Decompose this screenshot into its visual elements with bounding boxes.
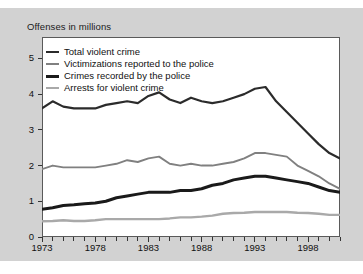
- x-tick-label-5: 1998: [288, 242, 328, 253]
- legend-swatch-icon: [46, 51, 59, 54]
- legend-label: Crimes recorded by the police: [64, 70, 190, 82]
- legend-label: Victimizations reported to the police: [64, 58, 214, 70]
- legend-item: Crimes recorded by the police: [46, 70, 276, 82]
- legend-item: Victimizations reported to the police: [46, 58, 276, 70]
- y-tick-label-2: 2: [20, 160, 34, 171]
- legend-label: Total violent crime: [64, 46, 140, 58]
- chart-figure: Offenses in millions Total violent crime…: [0, 0, 363, 274]
- x-tick-label-0: 1973: [22, 242, 62, 253]
- x-tick-label-4: 1993: [235, 242, 275, 253]
- legend-item: Arrests for violent crime: [46, 82, 276, 94]
- x-tick-label-1: 1978: [75, 242, 115, 253]
- y-tick-label-1: 1: [20, 195, 34, 206]
- legend-swatch-icon: [46, 75, 59, 78]
- x-tick-label-3: 1988: [182, 242, 222, 253]
- legend-swatch-icon: [46, 87, 59, 90]
- x-tick-label-2: 1983: [128, 242, 168, 253]
- y-tick-label-3: 3: [20, 124, 34, 135]
- y-tick-label-5: 5: [20, 52, 34, 63]
- chart-axes: [0, 0, 363, 274]
- y-tick-label-4: 4: [20, 88, 34, 99]
- legend-swatch-icon: [46, 63, 59, 66]
- legend-label: Arrests for violent crime: [64, 82, 164, 94]
- y-tick-label-0: 0: [20, 231, 34, 242]
- chart-legend: Total violent crimeVictimizations report…: [46, 46, 276, 94]
- legend-item: Total violent crime: [46, 46, 276, 58]
